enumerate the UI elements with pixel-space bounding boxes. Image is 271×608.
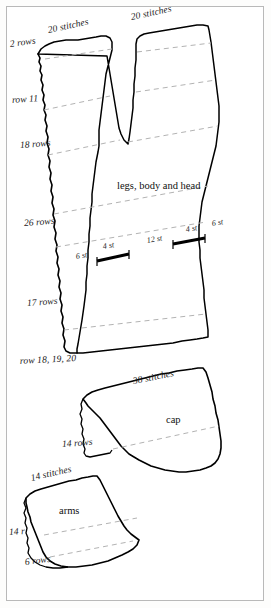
piece-label-legs-body-head: legs, body and head bbox=[117, 181, 200, 192]
piece-legs-body-head-outline-detail bbox=[38, 54, 77, 353]
label-rows-14r: 14 r bbox=[9, 527, 26, 538]
piece-label-cap: cap bbox=[166, 415, 181, 426]
stitch-bar-right bbox=[173, 238, 205, 244]
piece-label-arms: arms bbox=[59, 506, 79, 517]
piece-cap-outline bbox=[83, 368, 221, 472]
cap-guide-lines bbox=[113, 426, 219, 449]
label-row-11: row 11 bbox=[12, 94, 39, 105]
stitch-bar-left bbox=[97, 254, 129, 261]
piece-arms-outline bbox=[26, 476, 139, 567]
